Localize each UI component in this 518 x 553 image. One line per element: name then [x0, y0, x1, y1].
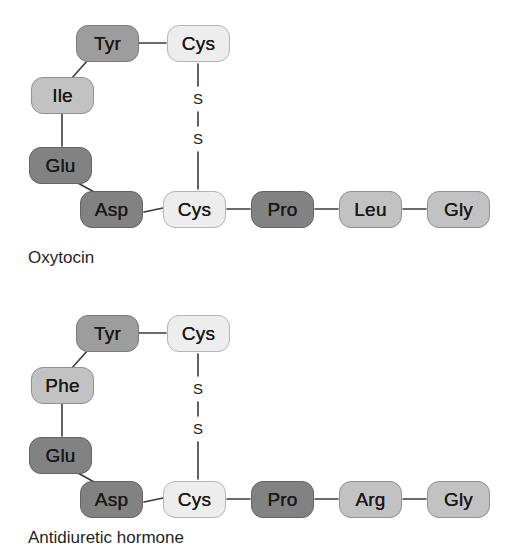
residue-tyr: Tyr	[76, 315, 139, 352]
residue-ile: Ile	[31, 77, 94, 114]
disulfide-sulfur-bottom: S	[190, 131, 206, 146]
disulfide-sulfur-top: S	[190, 91, 206, 106]
residue-glu: Glu	[29, 437, 92, 474]
residue-asp: Asp	[80, 191, 143, 228]
bond-asp-cys	[144, 208, 163, 212]
residue-pro: Pro	[251, 191, 314, 228]
panel-oxytocin: S S Tyr Cys Ile Glu Asp Cys Pro Leu Gly	[0, 0, 518, 280]
residue-glu: Glu	[29, 147, 92, 184]
residue-pro: Pro	[251, 481, 314, 518]
residue-gly: Gly	[427, 481, 490, 518]
disulfide-sulfur-bottom: S	[190, 421, 206, 436]
residue-arg: Arg	[339, 481, 402, 518]
residue-asp: Asp	[80, 481, 143, 518]
residue-cys-bottom: Cys	[163, 191, 226, 228]
caption-oxytocin: Oxytocin	[28, 248, 94, 268]
disulfide-sulfur-top: S	[190, 381, 206, 396]
caption-antidiuretic-hormone: Antidiuretic hormone	[28, 528, 184, 548]
residue-cys-bottom: Cys	[163, 481, 226, 518]
residue-leu: Leu	[339, 191, 402, 228]
residue-cys-top: Cys	[167, 315, 230, 352]
antidiuretic-hormone-diagram: S S Tyr Cys Phe Glu Asp Cys Pro Arg Gly	[0, 290, 518, 530]
residue-tyr: Tyr	[76, 25, 139, 62]
bond-asp-cys	[144, 498, 163, 502]
oxytocin-diagram: S S Tyr Cys Ile Glu Asp Cys Pro Leu Gly	[0, 0, 518, 240]
residue-cys-top: Cys	[167, 25, 230, 62]
residue-gly: Gly	[427, 191, 490, 228]
panel-antidiuretic-hormone: S S Tyr Cys Phe Glu Asp Cys Pro Arg Gly	[0, 290, 518, 553]
residue-phe: Phe	[31, 367, 94, 404]
